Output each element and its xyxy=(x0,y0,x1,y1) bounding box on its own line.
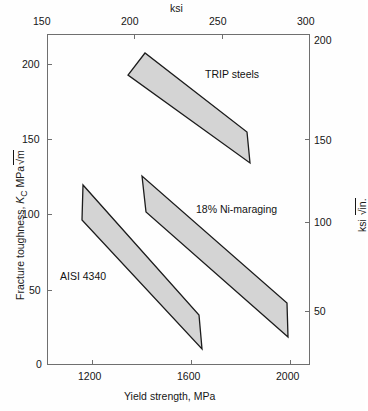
band-aisi-4340 xyxy=(82,185,202,349)
band-ni-maraging xyxy=(142,176,288,337)
band-label-trip-steels: TRIP steels xyxy=(205,68,259,80)
band-label-aisi-4340: AISI 4340 xyxy=(60,270,106,282)
band-label-ni-maraging: 18% Ni-maraging xyxy=(196,203,277,215)
